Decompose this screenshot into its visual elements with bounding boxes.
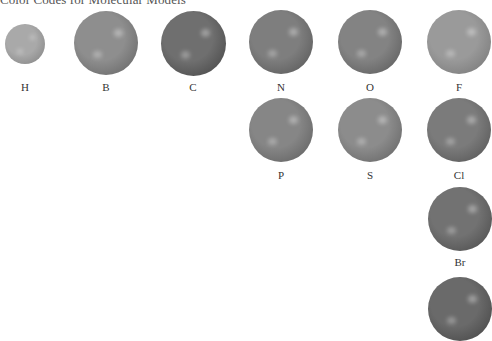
element-label-n: N xyxy=(249,81,313,93)
element-label-f: F xyxy=(427,81,491,93)
sphere-highlight xyxy=(289,28,298,36)
atom-sphere-h xyxy=(5,24,45,64)
sphere-highlight xyxy=(357,50,366,58)
element-label-c: C xyxy=(161,81,225,93)
sphere-highlight xyxy=(447,227,456,235)
atom-sphere-partial xyxy=(428,277,492,341)
atom-sphere-cl xyxy=(427,98,491,162)
sphere-highlight xyxy=(268,50,277,58)
sphere-highlight xyxy=(268,138,277,146)
sphere-highlight xyxy=(468,205,477,213)
element-label-b: B xyxy=(74,81,138,93)
sphere-highlight xyxy=(357,138,366,146)
sphere-highlight xyxy=(378,116,387,124)
sphere-highlight xyxy=(378,28,387,36)
atom-sphere-br xyxy=(428,187,492,251)
element-label-cl: Cl xyxy=(427,169,491,181)
atom-sphere-f xyxy=(427,10,491,74)
element-label-o: O xyxy=(338,81,402,93)
sphere-highlight xyxy=(114,29,123,37)
sphere-highlight xyxy=(289,116,298,124)
sphere-highlight xyxy=(181,51,190,59)
sphere-highlight xyxy=(201,29,210,37)
atom-sphere-n xyxy=(249,10,313,74)
sphere-highlight xyxy=(17,49,23,54)
element-label-br: Br xyxy=(428,256,492,268)
page-title: Color Codes for Molecular Models xyxy=(0,0,186,8)
sphere-highlight xyxy=(30,35,36,40)
element-label-p: P xyxy=(249,169,313,181)
sphere-highlight xyxy=(446,138,455,146)
sphere-highlight xyxy=(447,317,456,325)
atom-sphere-b xyxy=(74,11,138,75)
element-label-s: S xyxy=(338,169,402,181)
atom-sphere-o xyxy=(338,10,402,74)
atom-sphere-c xyxy=(161,11,226,76)
atom-sphere-s xyxy=(338,98,402,162)
atom-sphere-p xyxy=(249,98,313,162)
sphere-highlight xyxy=(467,116,476,124)
element-label-h: H xyxy=(0,81,57,93)
sphere-highlight xyxy=(93,51,102,59)
sphere-highlight xyxy=(446,50,455,58)
sphere-highlight xyxy=(468,295,477,303)
sphere-highlight xyxy=(467,28,476,36)
